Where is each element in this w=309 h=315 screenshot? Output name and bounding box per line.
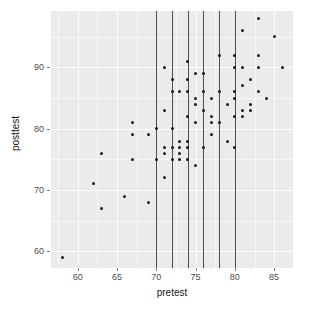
y-tick-label: 90: [16, 62, 44, 72]
data-point: [257, 66, 260, 69]
data-point: [218, 90, 221, 93]
data-point: [186, 140, 189, 143]
data-point: [194, 103, 197, 106]
y-axis-label: posttest: [10, 74, 21, 194]
vertical-reference-line: [235, 11, 236, 268]
x-tick-mark: [235, 268, 236, 271]
data-point: [233, 146, 236, 149]
data-point: [233, 66, 236, 69]
data-point: [202, 146, 205, 149]
data-point: [273, 35, 276, 38]
grid-line-minor-x: [137, 11, 138, 268]
data-point: [241, 109, 244, 112]
data-point: [100, 207, 103, 210]
data-point: [249, 103, 252, 106]
data-point: [249, 78, 252, 81]
data-point: [233, 97, 236, 100]
data-point: [186, 146, 189, 149]
data-point: [194, 72, 197, 75]
data-point: [241, 115, 244, 118]
data-point: [226, 103, 229, 106]
y-tick-label: 60: [16, 246, 44, 256]
x-axis-label: pretest: [51, 287, 293, 298]
x-tick-mark: [196, 268, 197, 271]
data-point: [186, 78, 189, 81]
data-point: [241, 66, 244, 69]
grid-line-minor-x: [176, 11, 177, 268]
data-point: [226, 140, 229, 143]
data-point: [241, 84, 244, 87]
data-point: [131, 121, 134, 124]
data-point: [186, 158, 189, 161]
data-point: [163, 66, 166, 69]
data-point: [210, 97, 213, 100]
data-point: [194, 97, 197, 100]
data-point: [178, 90, 181, 93]
data-point: [241, 29, 244, 32]
data-point: [163, 152, 166, 155]
data-point: [171, 78, 174, 81]
vertical-reference-line: [219, 11, 220, 268]
data-point: [147, 201, 150, 204]
grid-line-major-x: [78, 11, 79, 268]
y-tick-mark: [47, 129, 50, 130]
data-point: [257, 90, 260, 93]
grid-line-minor-x: [58, 11, 59, 268]
data-point: [210, 133, 213, 136]
grid-line-major-x: [274, 11, 275, 268]
data-point: [131, 158, 134, 161]
grid-line-minor-x: [97, 11, 98, 268]
data-point: [194, 164, 197, 167]
x-tick-mark: [156, 268, 157, 271]
x-tick-label: 75: [181, 272, 211, 282]
data-point: [194, 121, 197, 124]
data-point: [281, 66, 284, 69]
data-point: [178, 140, 181, 143]
data-point: [131, 133, 134, 136]
data-point: [218, 54, 221, 57]
x-tick-label: 65: [102, 272, 132, 282]
data-point: [202, 109, 205, 112]
x-tick-label: 60: [63, 272, 93, 282]
data-point: [210, 115, 213, 118]
data-point: [178, 158, 181, 161]
data-point: [171, 90, 174, 93]
data-point: [257, 54, 260, 57]
data-point: [171, 127, 174, 130]
data-point: [155, 158, 158, 161]
data-point: [202, 90, 205, 93]
x-tick-mark: [117, 268, 118, 271]
plot-panel: [51, 11, 293, 268]
x-tick-label: 70: [141, 272, 171, 282]
grid-line-major-x: [117, 11, 118, 268]
data-point: [100, 152, 103, 155]
x-tick-mark: [78, 268, 79, 271]
data-point: [218, 121, 221, 124]
y-tick-mark: [47, 190, 50, 191]
y-tick-mark: [47, 67, 50, 68]
grid-line-major-x: [196, 11, 197, 268]
x-tick-label: 80: [220, 272, 250, 282]
data-point: [123, 195, 126, 198]
x-tick-mark: [274, 268, 275, 271]
y-tick-mark: [47, 251, 50, 252]
data-point: [210, 121, 213, 124]
data-point: [163, 176, 166, 179]
grid-line-minor-x: [215, 11, 216, 268]
data-point: [265, 97, 268, 100]
data-point: [171, 146, 174, 149]
vertical-reference-line: [172, 11, 173, 268]
data-point: [155, 127, 158, 130]
data-point: [178, 152, 181, 155]
vertical-reference-line: [203, 11, 204, 268]
vertical-reference-line: [156, 11, 157, 268]
data-point: [61, 256, 64, 259]
data-point: [257, 17, 260, 20]
data-point: [249, 109, 252, 112]
data-point: [233, 54, 236, 57]
data-point: [163, 146, 166, 149]
data-point: [163, 109, 166, 112]
data-point: [178, 146, 181, 149]
data-point: [147, 133, 150, 136]
data-point: [186, 115, 189, 118]
